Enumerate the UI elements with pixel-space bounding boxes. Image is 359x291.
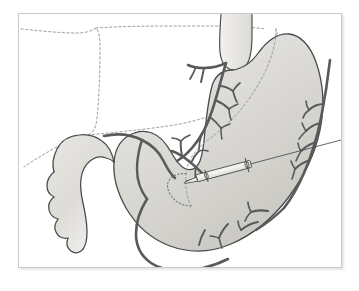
esophagus <box>220 14 252 71</box>
duodenum <box>47 135 114 253</box>
figure-root <box>0 0 359 291</box>
anatomical-illustration <box>0 0 359 291</box>
